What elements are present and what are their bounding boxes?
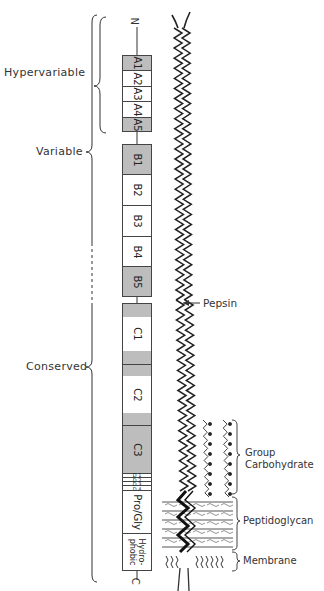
segment-b5: B5 [122, 266, 152, 297]
group-label-line1: Group [245, 447, 314, 459]
membrane-label: Membrane [243, 555, 297, 567]
segment-hydrophobic: Hydro- phobic [122, 533, 152, 571]
segment-b3: B3 [122, 205, 152, 237]
hydrophobic-line1: Hydro- [137, 539, 146, 566]
carbohydrate-brace [232, 420, 240, 494]
segment-a3: A3 [122, 86, 152, 102]
variable-brace [86, 15, 97, 243]
peptidoglycan-brace [232, 497, 240, 550]
segment-c1: C1 [122, 303, 152, 365]
region-label-variable: Variable [36, 145, 83, 158]
n-terminus-label: N [129, 18, 140, 26]
region-label-hypervariable: Hypervariable [4, 66, 85, 79]
group-carbohydrate-label: Group Carbohydrate [245, 447, 314, 471]
membrane-brace [232, 552, 240, 571]
c-terminus-label: C [130, 578, 141, 585]
wall-anchor-zigzag [178, 491, 188, 552]
diagram-artwork [0, 0, 324, 591]
segment-b1: B1 [122, 144, 152, 175]
hydrophobic-line2: phobic [128, 539, 137, 566]
group-label-line2: Carbohydrate [245, 459, 314, 471]
segment-b4: B4 [122, 236, 152, 267]
segment-c3: C3 [122, 425, 152, 474]
pepsin-label: Pepsin [203, 297, 237, 309]
hypervariable-brace [94, 17, 106, 133]
segment-a4: A4 [122, 101, 152, 118]
segment-pro-gly: Pro/Gly [122, 490, 152, 534]
hydrophobic-label: Hydro- phobic [128, 539, 146, 566]
m-protein-diagram: Hypervariable Variable Conserved N C A1 … [0, 0, 324, 591]
peptidoglycan-label: Peptidoglycan [243, 515, 313, 527]
segment-b2: B2 [122, 174, 152, 206]
coiled-coil-helix [172, 12, 190, 28]
segment-a1: A1 [122, 55, 152, 71]
d-segment-labels: D 1 D 2 D 3 D 4 [122, 473, 152, 491]
conserved-brace [86, 305, 97, 582]
region-label-conserved: Conserved [26, 360, 87, 373]
segment-a5: A5 [122, 117, 152, 132]
segment-c2: C2 [122, 364, 152, 426]
segment-a2: A2 [122, 70, 152, 87]
